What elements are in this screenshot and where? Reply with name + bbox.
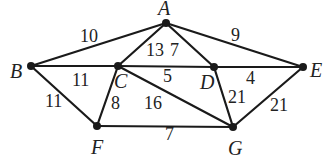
edge-weight-c-g: 16 — [144, 93, 162, 113]
node-e — [299, 63, 307, 71]
edge-weight-e-g: 21 — [270, 95, 288, 115]
node-label-d: D — [199, 71, 215, 93]
edge-weight-d-e: 4 — [246, 68, 255, 88]
edge-weights-layer: 10137911541181621217 — [45, 25, 288, 144]
node-label-f: F — [90, 136, 104, 158]
edge-weight-c-d: 5 — [163, 66, 172, 86]
edge-weight-a-c: 13 — [146, 40, 164, 60]
node-c — [114, 62, 122, 70]
edge-weight-a-d: 7 — [170, 40, 179, 60]
edge-weight-a-b: 10 — [80, 26, 98, 46]
node-label-c: C — [114, 70, 128, 92]
node-a — [162, 19, 170, 27]
graph-diagram: 10137911541181621217 ABCDEFG — [0, 0, 331, 166]
node-d — [210, 63, 218, 71]
node-f — [93, 122, 101, 130]
node-label-b: B — [10, 60, 22, 82]
edge-weight-d-g: 21 — [228, 87, 246, 107]
node-label-e: E — [309, 59, 322, 81]
edge-weight-b-f: 11 — [45, 91, 62, 111]
edge-weight-b-c: 11 — [72, 70, 89, 90]
node-b — [27, 62, 35, 70]
node-g — [229, 123, 237, 131]
edge-weight-f-g: 7 — [165, 124, 174, 144]
graph-svg: 10137911541181621217 ABCDEFG — [0, 0, 331, 166]
edge-weight-c-f: 8 — [111, 93, 120, 113]
node-label-g: G — [228, 137, 243, 159]
node-label-a: A — [156, 0, 171, 19]
edge-weight-a-e: 9 — [231, 25, 240, 45]
